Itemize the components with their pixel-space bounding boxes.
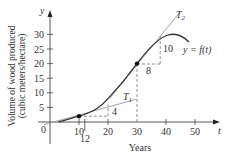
y-tick-label: 10: [34, 87, 44, 98]
y-tick-label: 15: [34, 73, 44, 84]
T2-label: T2: [176, 9, 186, 22]
origin-label: 0: [41, 124, 46, 135]
y-axis-title-line1: Volume of wood produced: [7, 25, 17, 126]
x-axis-variable: t: [218, 125, 221, 136]
rise-label-4: 4: [112, 106, 117, 117]
y-tick-label: 25: [34, 44, 44, 55]
x-tick-label: 30: [132, 126, 142, 137]
curve-label: y = f(t): [182, 44, 212, 56]
x-tick-label: 40: [161, 126, 171, 137]
point-t10: [77, 114, 81, 118]
x-tick-label: 50: [190, 126, 200, 137]
chart: 5 10 15 20 25 30 y 0 10 12 20 30 40 50 t…: [0, 0, 225, 156]
x-tick-label: 12: [80, 133, 90, 144]
y-axis-arrow-icon: [48, 10, 53, 17]
x-axis-title: Years: [129, 142, 151, 153]
y-tick-label: 20: [34, 58, 44, 69]
axes: [38, 14, 216, 144]
x-axis-arrow-icon: [213, 120, 220, 125]
run-label-8: 8: [146, 65, 151, 76]
rise-label-10: 10: [163, 43, 173, 54]
y-axis-title-line2: (cubic meters/hectare): [17, 34, 28, 119]
y-tick-label: 5: [39, 102, 44, 113]
y-tick-label: 30: [34, 29, 44, 40]
point-t30: [135, 61, 139, 65]
y-axis-title: Volume of wood produced (cubic meters/he…: [7, 25, 28, 126]
dashed-guides: [79, 35, 160, 122]
y-axis-variable: y: [39, 5, 45, 16]
x-tick-label: 20: [103, 126, 113, 137]
